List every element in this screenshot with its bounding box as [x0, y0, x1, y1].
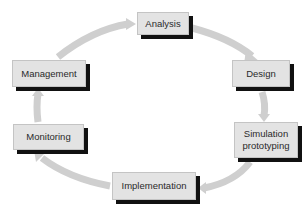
arrowhead-analysis	[126, 18, 136, 30]
node-analysis: Analysis	[137, 12, 189, 35]
arrow-management-to-analysis	[58, 24, 128, 57]
node-monitoring: Monitoring	[13, 124, 84, 150]
arrow-implementation-to-monitoring	[42, 158, 110, 186]
node-design: Design	[232, 60, 290, 87]
node-label: Implementation	[112, 172, 196, 200]
arrow-design-to-simulation	[262, 92, 265, 116]
node-implementation: Implementation	[112, 172, 196, 200]
node-management: Management	[12, 60, 86, 87]
arrow-simulation-to-implementation	[204, 162, 250, 188]
node-label: Design	[232, 60, 290, 87]
node-label: Management	[12, 60, 86, 87]
node-label: Simulation prototyping	[234, 122, 298, 158]
arrowhead-simulation	[258, 114, 270, 122]
arrow-analysis-to-design	[192, 28, 252, 56]
node-label: Monitoring	[13, 124, 84, 150]
node-label: Analysis	[137, 12, 189, 35]
arrow-monitoring-to-management	[37, 94, 38, 122]
node-simulation-prototyping: Simulation prototyping	[234, 122, 298, 158]
